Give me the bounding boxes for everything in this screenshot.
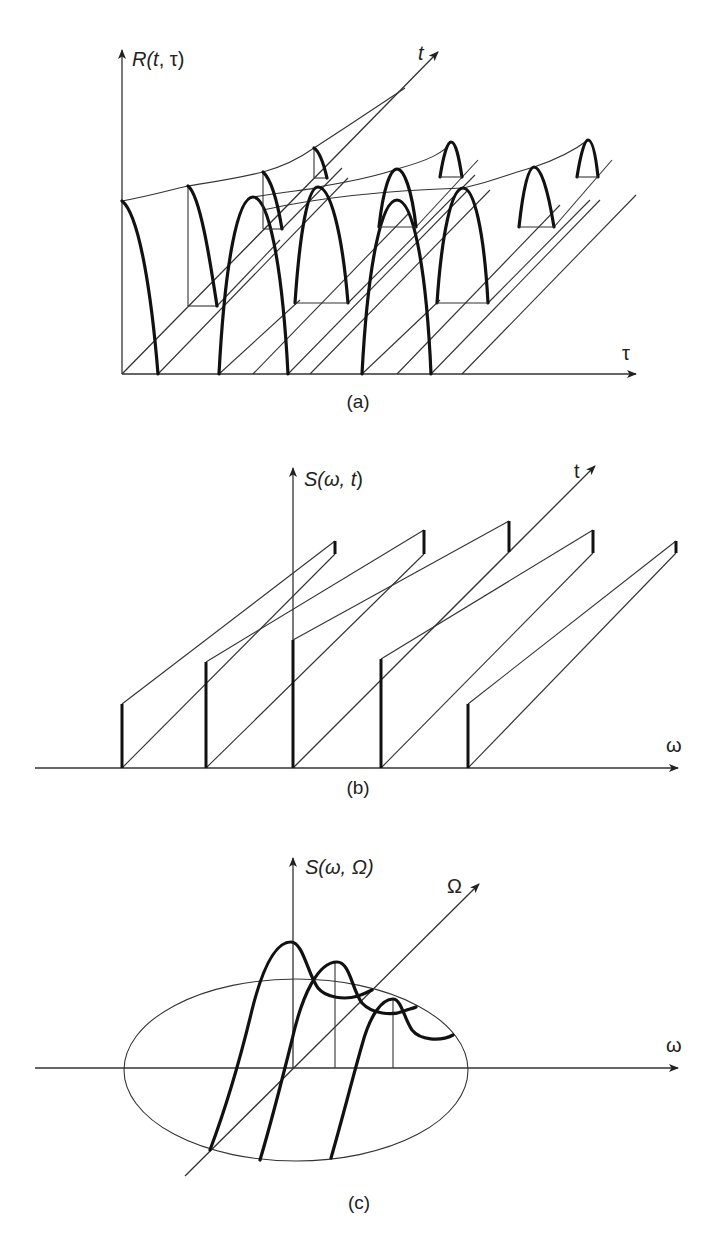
panel-c-caption: (c) bbox=[348, 1192, 370, 1213]
panel-b-depth-axis-label: t bbox=[574, 460, 580, 482]
panel-a-lobe bbox=[519, 167, 554, 227]
panel-c-Omega-axis bbox=[185, 884, 479, 1176]
panel-a-envelope-mid bbox=[253, 142, 451, 197]
panel-a: R(t, τ) t τ (a) bbox=[122, 42, 636, 412]
panel-b-caption: (b) bbox=[346, 777, 369, 798]
panel-b-vertical-axis-label: S(ω, t) bbox=[304, 468, 363, 490]
panel-b-t-axis bbox=[293, 466, 595, 768]
panel-a-lobe bbox=[295, 187, 348, 303]
panel-b: S(ω, t) t ω (b) bbox=[35, 460, 682, 798]
panel-a-lobe bbox=[188, 186, 217, 306]
panel-a-lobe bbox=[314, 148, 327, 178]
panel-c-vertical-axis-label: S(ω, Ω) bbox=[305, 856, 374, 878]
panel-c-spectral-curve bbox=[331, 999, 453, 1158]
panel-c-horizontal-axis-label: ω bbox=[666, 1034, 682, 1056]
panel-c-depth-axis-label: Ω bbox=[447, 875, 462, 897]
panel-a-vertical-axis-label: R(t, τ) bbox=[132, 48, 184, 70]
figure-canvas: R(t, τ) t τ (a) S bbox=[0, 0, 720, 1249]
panel-c: S(ω, Ω) Ω ω (c) bbox=[35, 856, 682, 1213]
panel-a-lobe bbox=[219, 197, 288, 374]
panel-b-horizontal-axis-label: ω bbox=[666, 734, 682, 756]
panel-a-depth-axis-label: t bbox=[418, 42, 425, 64]
panel-a-lobe bbox=[440, 142, 462, 177]
panel-a-caption: (a) bbox=[346, 391, 369, 412]
panel-a-lobe bbox=[122, 201, 158, 374]
panel-a-horizontal-axis-label: τ bbox=[622, 342, 630, 364]
